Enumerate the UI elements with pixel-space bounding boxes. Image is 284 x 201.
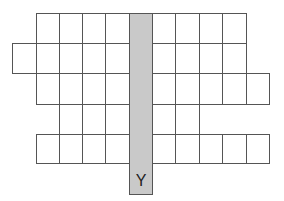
grid-cell [105,73,130,105]
grid-cell [105,13,130,44]
column-label: Y [130,172,152,190]
grid-cell [59,43,83,74]
grid-cell [36,73,60,105]
grid-cell [36,134,60,164]
grid-cell [246,73,270,105]
grid-cell [36,13,60,44]
grid-cell [152,13,176,44]
grid-cell [105,134,130,164]
grid-cell [199,73,223,105]
grid-cell [175,134,200,164]
grid-cell [222,134,247,164]
grid-cell [82,13,106,44]
grid-cell [222,13,247,44]
grid-cell [105,104,130,135]
grid-cell [12,43,37,74]
grid-cell [199,134,223,164]
grid-cell [82,134,106,164]
grid-cell [175,104,200,135]
grid-cell [175,73,200,105]
grid-cell [59,134,83,164]
grid-cell [152,43,176,74]
grid-cell [222,73,247,105]
grid-cell [36,43,60,74]
grid-cell [246,134,270,164]
grid-cell [199,13,223,44]
grid-cell [82,43,106,74]
grid-cell [222,43,247,74]
grid-cell [152,73,176,105]
highlighted-column-y: Y [129,13,153,195]
grid-cell [152,104,176,135]
grid-cell [82,104,106,135]
grid-cell [59,73,83,105]
grid-cell [152,134,176,164]
grid-cell [59,104,83,135]
grid-cell [175,43,200,74]
grid-cell [82,73,106,105]
grid-cell [175,13,200,44]
grid-cell [105,43,130,74]
grid-cell [59,13,83,44]
grid-diagram: Y [0,0,284,201]
grid-cell [199,43,223,74]
